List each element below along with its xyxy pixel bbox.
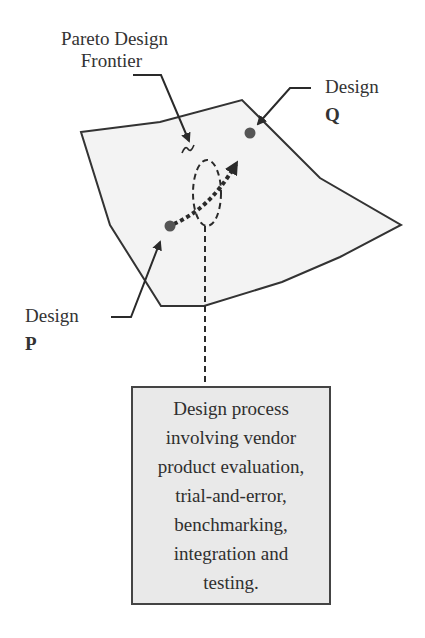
design-p-label-letter: P: [25, 333, 79, 355]
process-box-line: product evaluation,: [158, 452, 305, 481]
design-process-box: Design process involving vendor product …: [131, 386, 331, 605]
pareto-frontier-label: Pareto Design Frontier: [30, 28, 168, 72]
design-q-leader-arrow: [258, 88, 311, 124]
design-point-p: [165, 221, 176, 232]
design-q-label-line1: Design: [325, 76, 379, 98]
design-q-label-letter: Q: [325, 104, 379, 126]
design-space-region: [81, 100, 401, 306]
process-box-line: trial-and-error,: [175, 481, 287, 510]
process-box-line: benchmarking,: [174, 510, 287, 539]
design-p-label: Design P: [25, 305, 79, 355]
design-q-label: Design Q: [325, 76, 379, 126]
design-p-label-line1: Design: [25, 305, 79, 327]
design-point-q: [245, 128, 256, 139]
process-box-line: Design process: [173, 394, 289, 423]
pareto-frontier-label-line1: Pareto Design: [30, 28, 168, 50]
process-box-line: integration and: [174, 539, 289, 568]
process-box-line: testing.: [203, 568, 258, 597]
process-box-line: involving vendor: [166, 423, 296, 452]
pareto-frontier-label-line2: Frontier: [30, 50, 168, 72]
